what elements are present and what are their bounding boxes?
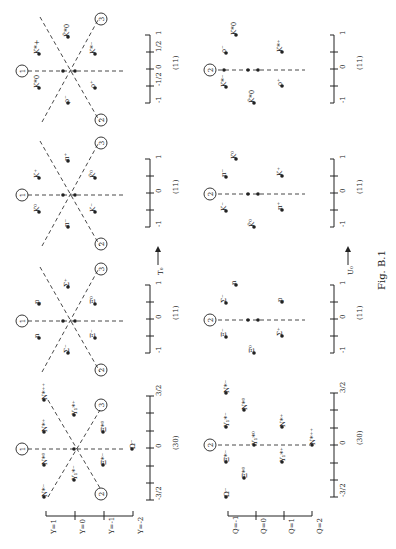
svg-text:Ξ*⁻: Ξ*⁻ [100,453,108,465]
panel-baryon-octet-T: 1 2 3 n p Σ⁻ Σ⁺ Ξ⁻ Ξ⁰ -1 0 1 (11) [16,263,180,376]
svg-text:1: 1 [155,155,163,159]
svg-text:N*⁺⁺: N*⁺⁺ [41,383,49,400]
svg-text:N*⁻: N*⁻ [41,483,49,497]
svg-text:-1: -1 [155,96,163,103]
svg-text:Ω⁻: Ω⁻ [223,487,231,497]
svg-text:Ξ⁻: Ξ⁻ [220,328,228,337]
svg-text:Ω⁻: Ω⁻ [129,439,137,449]
svg-text:2: 2 [207,318,215,322]
svg-text:0: 0 [339,315,347,319]
svg-text:0: 0 [155,189,163,193]
svg-text:0: 0 [155,444,163,448]
svg-text:1: 1 [19,447,27,451]
svg-text:(30): (30) [172,435,180,450]
figure-caption: Fig. B.1 [376,250,387,290]
svg-text:Y=1: Y=1 [50,519,58,535]
u0-operator-arrow: U₀ [345,246,355,275]
svg-text:π⁺: π⁺ [276,201,284,210]
svg-text:-1: -1 [339,346,347,353]
svg-text:Ξ*⁰: Ξ*⁰ [100,421,108,432]
svg-text:K*⁺: K*⁺ [276,39,284,52]
svg-text:2: 2 [98,492,106,496]
svg-text:Q=1: Q=1 [288,518,296,534]
panel-baryon-decuplet-U: 2 Ω⁻ Ξ*⁻ Y₁*⁻ N*⁻ Ξ*⁰ Y₁*⁰ N*⁰ Y₁*⁺ N*⁺ … [204,379,364,534]
svg-text:K̄*0: K̄*0 [62,24,71,37]
svg-text:p: p [276,297,284,302]
svg-text:K*⁻: K*⁻ [89,41,97,54]
svg-text:1: 1 [19,319,27,323]
svg-text:N*⁺: N*⁺ [41,418,49,432]
svg-text:3/2: 3/2 [155,385,163,396]
svg-text:2: 2 [207,68,215,72]
svg-text:ρ⁺: ρ⁺ [89,80,97,88]
svg-text:Ξ*⁻: Ξ*⁻ [223,450,231,462]
svg-text:2: 2 [98,368,106,372]
svg-text:0: 0 [339,189,347,193]
svg-text:Y₁*⁺: Y₁*⁺ [71,400,79,416]
svg-text:N*⁰: N*⁰ [41,452,49,465]
svg-text:Σ⁺: Σ⁺ [63,278,71,287]
svg-text:K⁰: K⁰ [230,151,238,159]
svg-text:ρ⁻: ρ⁻ [220,45,228,53]
svg-text:π⁺: π⁺ [63,152,71,161]
svg-text:-3/2: -3/2 [155,486,163,500]
svg-text:K⁺: K⁺ [276,167,284,176]
svg-text:Ξ*⁰: Ξ*⁰ [241,467,249,478]
svg-text:Σ⁻: Σ⁻ [63,344,71,353]
svg-text:-1/2: -1/2 [155,72,163,86]
svg-text:1: 1 [19,69,27,73]
svg-text:(11): (11) [356,55,364,70]
svg-text:K̄⁰: K̄⁰ [88,170,97,178]
svg-text:π⁻: π⁻ [220,168,228,177]
svg-text:(11): (11) [356,305,364,320]
svg-text:2: 2 [207,443,215,447]
svg-text:1: 1 [339,281,347,285]
svg-text:Y=-1: Y=-1 [108,517,116,535]
panel-pseudoscalar-mesons-U: 2 K⁻ π⁻ K̄⁰ K⁰ π⁺ K⁺ -1 0 1 (11) [204,151,364,229]
svg-text:-1: -1 [155,346,163,353]
svg-text:0: 0 [339,65,347,69]
rotated-figure-page: 1 2 3 K*0 K*+ ρ⁻ K̄*0 K*⁻ ρ⁺ -1 -1/2 0 1… [0,0,396,549]
svg-text:3: 3 [98,403,106,407]
svg-text:K⁺: K⁺ [33,169,41,178]
svg-text:Y₁*⁰: Y₁*⁰ [251,431,259,446]
svg-text:0: 0 [339,441,347,445]
panel-baryon-decuplet-T: 1 2 3 N*⁻ N*⁰ N*⁺ N*⁺⁺ Y₁*⁻ Y₁*⁺ Ξ*⁻ Ξ*⁰… [16,383,180,535]
svg-text:2: 2 [98,118,106,122]
svg-text:K̄*0: K̄*0 [247,90,256,103]
svg-text:1: 1 [155,281,163,285]
svg-text:K⁻: K⁻ [220,202,228,211]
svg-text:3: 3 [98,267,106,271]
svg-text:K⁻: K⁻ [89,203,97,212]
svg-text:0: 0 [155,65,163,69]
svg-text:Ξ⁰: Ξ⁰ [248,345,256,353]
svg-text:(11): (11) [172,305,180,320]
t0-operator-arrow: T₀ [155,246,165,275]
svg-text:1: 1 [339,155,347,159]
svg-text:ρ⁺: ρ⁺ [276,78,284,86]
svg-text:T₀: T₀ [157,267,165,275]
svg-text:Y₁*⁺: Y₁*⁺ [279,447,287,463]
svg-text:Y=-2: Y=-2 [137,517,145,535]
svg-text:K*⁻: K*⁻ [220,74,228,87]
svg-text:2: 2 [207,192,215,196]
svg-text:K*0: K*0 [230,22,238,35]
svg-text:1: 1 [339,31,347,35]
svg-text:ρ⁻: ρ⁻ [63,95,71,103]
svg-text:(11): (11) [172,55,180,70]
svg-text:n: n [33,333,41,338]
svg-text:n: n [230,280,238,285]
panel-vector-mesons-T: 1 2 3 K*0 K*+ ρ⁻ K̄*0 K*⁻ ρ⁺ -1 -1/2 0 1… [16,13,180,126]
panel-pseudoscalar-mesons-T: 1 2 3 K⁰ K⁺ π⁻ π⁺ K̄⁰ K⁻ -1 0 1 (11) [16,137,180,250]
svg-text:Σ⁺: Σ⁺ [276,327,284,336]
svg-text:Y₁*⁻: Y₁*⁻ [71,465,79,481]
svg-text:-1: -1 [339,96,347,103]
svg-text:-3/2: -3/2 [339,483,347,497]
svg-text:-1: -1 [339,220,347,227]
svg-text:K⁰: K⁰ [33,204,41,212]
svg-text:3/2: 3/2 [339,382,347,393]
svg-text:-1: -1 [155,220,163,227]
svg-text:1/2: 1/2 [155,41,163,52]
svg-text:Σ⁻: Σ⁻ [220,294,228,303]
svg-text:Q=2: Q=2 [316,518,324,534]
